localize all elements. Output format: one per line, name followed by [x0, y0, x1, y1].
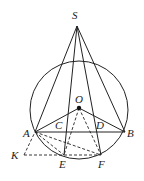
label-K: K: [10, 149, 19, 161]
segment-SE: [64, 26, 77, 155]
segment-AE: [35, 132, 64, 155]
label-O: O: [75, 93, 83, 105]
segment-SF: [77, 26, 101, 155]
label-D: D: [95, 119, 104, 131]
center-point-O: [77, 106, 81, 110]
segment-SB: [77, 26, 125, 132]
label-E: E: [58, 158, 66, 170]
geometry-diagram: S O A B C D E F K: [0, 0, 144, 181]
label-F: F: [97, 158, 105, 170]
label-S: S: [72, 9, 78, 21]
label-B: B: [127, 127, 134, 139]
label-A: A: [22, 127, 30, 139]
label-C: C: [55, 119, 63, 131]
